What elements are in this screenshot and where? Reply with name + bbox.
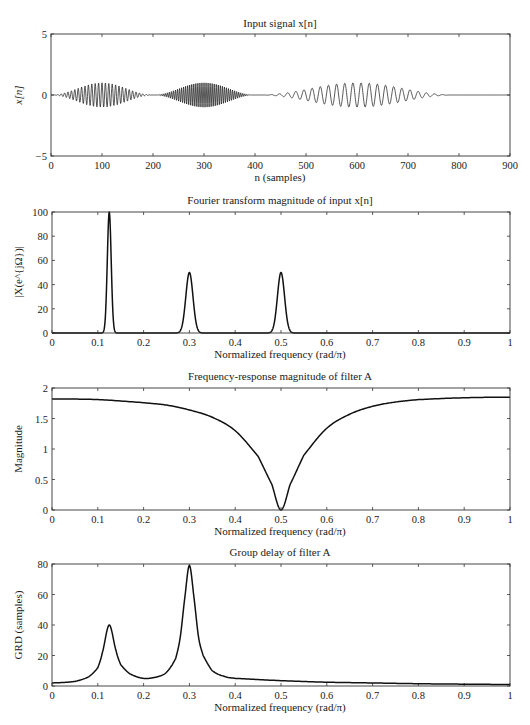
x-tick-label: 700 <box>400 160 416 171</box>
plot-frame <box>52 564 510 686</box>
x-tick-label: 1 <box>507 690 512 701</box>
chart-input-signal: Input signal x[n] x[n] n (samples) 01002… <box>12 17 518 184</box>
y-tick-label: 60 <box>38 255 49 266</box>
x-tick-label: 0.2 <box>137 514 150 525</box>
x-tick-label: 800 <box>451 160 467 171</box>
figure-canvas: Input signal x[n] x[n] n (samples) 01002… <box>0 0 530 725</box>
x-tick-label: 0.8 <box>412 337 425 348</box>
x-tick-label: 0 <box>49 514 54 525</box>
y-tick-label: −5 <box>36 151 47 162</box>
x-tick-label: 0.4 <box>229 337 243 348</box>
chart-title: Fourier transform magnitude of input x[n… <box>187 194 372 206</box>
x-tick-label: 0.3 <box>183 337 196 348</box>
x-tick-label: 200 <box>145 160 161 171</box>
x-tick-label: 0.7 <box>366 690 379 701</box>
x-tick-label: 400 <box>247 160 263 171</box>
y-tick-label: 20 <box>38 651 49 662</box>
x-tick-label: 0.3 <box>183 514 196 525</box>
x-tick-label: 0.4 <box>229 514 243 525</box>
y-tick-label: 1.5 <box>35 414 48 425</box>
chart-title: Input signal x[n] <box>243 17 316 29</box>
x-tick-label: 900 <box>502 160 518 171</box>
y-tick-label: 1 <box>43 444 48 455</box>
chart-ft-magnitude: Fourier transform magnitude of input x[n… <box>12 194 513 361</box>
x-tick-label: 500 <box>298 160 314 171</box>
x-tick-label: 0.4 <box>229 690 243 701</box>
x-tick-label: 0.5 <box>274 514 287 525</box>
y-tick-label: 80 <box>38 559 49 570</box>
x-tick-label: 0 <box>48 160 53 171</box>
x-tick-label: 0.1 <box>91 690 104 701</box>
x-axis-label: Normalized frequency (rad/π) <box>214 701 346 714</box>
x-tick-label: 0.9 <box>458 514 471 525</box>
x-tick-label: 0 <box>49 337 54 348</box>
y-axis-label: Magnitude <box>12 425 24 473</box>
x-tick-label: 0 <box>49 690 54 701</box>
x-tick-label: 0.1 <box>91 337 104 348</box>
x-axis-label: Normalized frequency (rad/π) <box>214 348 346 361</box>
plot-frame <box>52 388 510 510</box>
y-tick-label: 0 <box>43 328 48 339</box>
y-axis-label: |X(e^{jΩ})| <box>12 246 25 298</box>
x-tick-label: 300 <box>196 160 212 171</box>
y-tick-label: 40 <box>38 280 49 291</box>
x-tick-label: 0.8 <box>412 514 425 525</box>
data-line <box>52 566 510 685</box>
x-tick-label: 0.6 <box>320 514 333 525</box>
y-tick-label: 0 <box>42 90 47 101</box>
x-tick-label: 0.2 <box>137 690 150 701</box>
y-tick-label: 60 <box>38 590 49 601</box>
y-axis-label: x[n] <box>12 86 24 106</box>
x-tick-label: 100 <box>94 160 110 171</box>
plot-area: 00.10.20.30.40.50.60.70.80.91020406080 <box>38 559 513 701</box>
y-tick-label: 0 <box>43 505 48 516</box>
chart-title: Group delay of filter A <box>230 546 331 558</box>
x-tick-label: 0.1 <box>91 514 104 525</box>
x-tick-label: 1 <box>507 337 512 348</box>
data-line <box>52 397 510 510</box>
y-tick-label: 40 <box>38 620 49 631</box>
y-tick-label: 80 <box>38 231 49 242</box>
x-tick-label: 0.7 <box>366 514 379 525</box>
x-tick-label: 0.8 <box>412 690 425 701</box>
plot-area: 00.10.20.30.40.50.60.70.80.9100.511.52 <box>35 383 513 525</box>
y-axis-label: GRD (samples) <box>12 590 25 659</box>
x-tick-label: 0.9 <box>458 690 471 701</box>
x-axis-label: n (samples) <box>254 171 305 184</box>
y-tick-label: 0.5 <box>35 475 48 486</box>
chart-title: Frequency-response magnitude of filter A <box>188 370 372 382</box>
data-line <box>52 212 510 333</box>
x-tick-label: 600 <box>349 160 365 171</box>
x-tick-label: 0.3 <box>183 690 196 701</box>
x-axis-label: Normalized frequency (rad/π) <box>214 525 346 538</box>
plot-area: 00.10.20.30.40.50.60.70.80.9102040608010… <box>32 207 512 348</box>
plot-area: 0100200300400500600700800900−505 <box>36 29 518 171</box>
chart-filter-magnitude: Frequency-response magnitude of filter A… <box>12 370 513 538</box>
x-tick-label: 0.6 <box>320 690 333 701</box>
y-tick-label: 100 <box>32 207 48 218</box>
x-tick-label: 0.7 <box>366 337 379 348</box>
x-tick-label: 0.6 <box>320 337 333 348</box>
x-tick-label: 0.5 <box>274 337 287 348</box>
x-tick-label: 0.2 <box>137 337 150 348</box>
y-tick-label: 5 <box>42 29 47 40</box>
y-tick-label: 20 <box>38 304 49 315</box>
x-tick-label: 0.9 <box>458 337 471 348</box>
x-tick-label: 0.5 <box>274 690 287 701</box>
chart-group-delay: Group delay of filter A GRD (samples) No… <box>12 546 513 714</box>
data-line <box>51 83 510 107</box>
x-tick-label: 1 <box>507 514 512 525</box>
y-tick-label: 0 <box>43 681 48 692</box>
y-tick-label: 2 <box>43 383 48 394</box>
